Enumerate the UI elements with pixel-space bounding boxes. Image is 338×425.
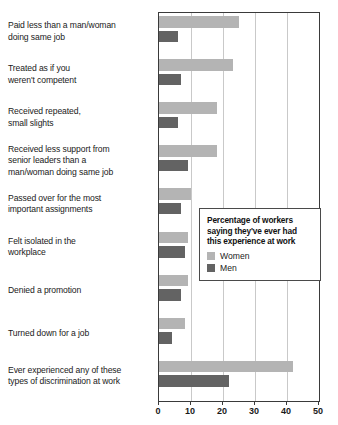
bar-women xyxy=(159,102,217,114)
bar-men xyxy=(159,289,181,301)
bar-women xyxy=(159,59,233,71)
legend-swatch-icon xyxy=(207,264,215,272)
category-label: Treated as if youweren't competent xyxy=(8,63,154,86)
x-tick-label: 30 xyxy=(249,406,259,416)
category-label: Received repeated,small slights xyxy=(8,106,154,129)
x-tick-label: 0 xyxy=(155,406,160,416)
chart-row: Received less support fromsenior leaders… xyxy=(0,141,338,184)
bar-group xyxy=(159,318,319,354)
bar-men xyxy=(159,117,178,129)
category-label-line: Ever experienced any of these xyxy=(8,365,154,376)
bar-men xyxy=(159,74,181,86)
x-tick-label: 20 xyxy=(217,406,227,416)
category-label-line: types of discrimination at work xyxy=(8,376,154,387)
legend-label: Women xyxy=(220,252,249,261)
x-axis: 01020304050 xyxy=(158,401,320,423)
category-label: Turned down for a job xyxy=(8,328,154,339)
bar-group xyxy=(159,59,319,95)
bar-women xyxy=(159,275,188,287)
bar-women xyxy=(159,318,185,330)
x-tick-label: 10 xyxy=(185,406,195,416)
x-tick xyxy=(254,401,255,405)
x-tick xyxy=(222,401,223,405)
category-label-line: Received repeated, xyxy=(8,106,154,117)
category-label-line: important assignments xyxy=(8,204,154,215)
category-label: Denied a promotion xyxy=(8,285,154,296)
category-label-line: Paid less than a man/woman xyxy=(8,20,154,31)
x-tick xyxy=(190,401,191,405)
horizontal-bar-chart: Paid less than a man/womandoing same job… xyxy=(0,0,338,425)
bar-men xyxy=(159,246,185,258)
category-label-line: small slights xyxy=(8,118,154,129)
chart-row: Turned down for a job xyxy=(0,314,338,357)
bar-men xyxy=(159,203,181,215)
x-tick-label: 40 xyxy=(281,406,291,416)
legend-title-line: Percentage of workers xyxy=(207,215,313,226)
category-label: Ever experienced any of thesetypes of di… xyxy=(8,365,154,388)
category-label-line: workplace xyxy=(8,247,154,258)
chart-row: Ever experienced any of thesetypes of di… xyxy=(0,357,338,400)
bar-group xyxy=(159,361,319,397)
category-label-line: weren't competent xyxy=(8,75,154,86)
category-label-line: senior leaders than a xyxy=(8,155,154,166)
category-label-line: Denied a promotion xyxy=(8,285,154,296)
bar-women xyxy=(159,188,191,200)
bar-group xyxy=(159,102,319,138)
bar-men xyxy=(159,160,188,172)
category-label-line: Felt isolated in the xyxy=(8,236,154,247)
legend-label: Men xyxy=(220,264,237,273)
chart-legend: Percentage of workerssaying they've ever… xyxy=(199,208,321,281)
category-label-line: Passed over for the most xyxy=(8,193,154,204)
chart-row: Received repeated,small slights xyxy=(0,98,338,141)
bar-women xyxy=(159,16,239,28)
bar-women xyxy=(159,361,293,373)
chart-row: Paid less than a man/womandoing same job xyxy=(0,12,338,55)
bar-men xyxy=(159,375,229,387)
x-tick-label: 50 xyxy=(313,406,323,416)
legend-item-men: Men xyxy=(207,264,313,273)
x-tick xyxy=(318,401,319,405)
legend-swatch-icon xyxy=(207,252,215,260)
bar-women xyxy=(159,232,188,244)
bar-group xyxy=(159,16,319,52)
category-label: Passed over for the mostimportant assign… xyxy=(8,193,154,216)
legend-item-women: Women xyxy=(207,252,313,261)
category-label-line: man/woman doing same job xyxy=(8,167,154,178)
legend-title-line: saying they've ever had xyxy=(207,226,313,237)
category-label-line: doing same job xyxy=(8,32,154,43)
category-label-line: Received less support from xyxy=(8,144,154,155)
category-label: Received less support fromsenior leaders… xyxy=(8,144,154,178)
legend-title: Percentage of workerssaying they've ever… xyxy=(207,215,313,247)
category-label-line: Treated as if you xyxy=(8,63,154,74)
bar-men xyxy=(159,332,172,344)
category-label-line: Turned down for a job xyxy=(8,328,154,339)
legend-title-line: this experience at work xyxy=(207,236,313,247)
category-label: Paid less than a man/womandoing same job xyxy=(8,20,154,43)
chart-row: Treated as if youweren't competent xyxy=(0,55,338,98)
x-tick xyxy=(286,401,287,405)
category-rows: Paid less than a man/womandoing same job… xyxy=(0,12,338,400)
legend-items: WomenMen xyxy=(207,252,313,273)
bar-men xyxy=(159,31,178,43)
x-tick xyxy=(158,401,159,405)
bar-group xyxy=(159,145,319,181)
bar-women xyxy=(159,145,217,157)
category-label: Felt isolated in theworkplace xyxy=(8,236,154,259)
